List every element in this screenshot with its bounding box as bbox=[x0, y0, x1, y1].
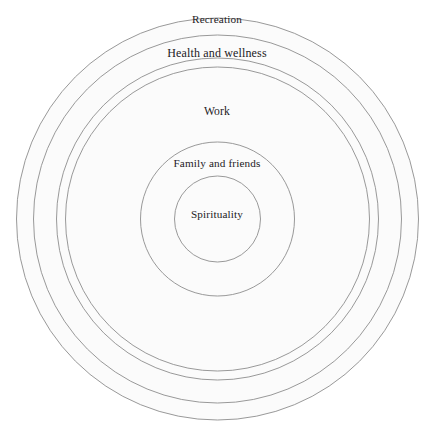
ring-circle-spirituality bbox=[175, 176, 261, 262]
rings-svg bbox=[0, 0, 434, 433]
concentric-circles-diagram: Recreation Health and wellness Work Fami… bbox=[0, 0, 434, 433]
